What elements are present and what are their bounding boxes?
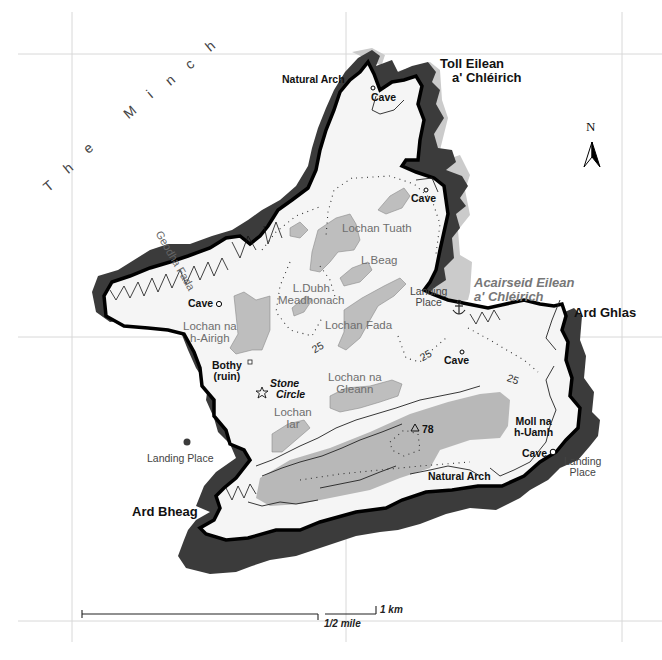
loch-dubh-line1: L.Dubh <box>278 282 345 294</box>
landing-place-east-bay: Landing Place <box>410 286 447 308</box>
loch-iar-line1: Lochan <box>274 406 312 418</box>
islet <box>184 439 191 446</box>
cave-icon <box>371 86 375 90</box>
landing-line2: Place <box>410 297 447 308</box>
loch-gleann-line1: Lochan na <box>328 371 382 383</box>
loch-airigh-label: Lochan na h-Airigh <box>183 320 237 344</box>
cave-northeast-label: Cave <box>411 193 436 204</box>
headland-line1: Toll Eilean <box>440 57 522 71</box>
loch-tuath-label: Lochan Tuath <box>342 222 412 234</box>
cave-icon <box>550 449 556 455</box>
bothy-icon <box>248 360 252 364</box>
natural-arch-south: Natural Arch <box>428 471 491 482</box>
natural-arch-north: Natural Arch <box>282 74 345 85</box>
landing-place-southwest: Landing Place <box>147 453 214 464</box>
loch-fada-label: Lochan Fada <box>325 319 392 331</box>
loch-gleann-line2: Gleann <box>328 383 382 395</box>
cave-west-label: Cave <box>188 298 213 309</box>
bay-label: Acairseid Eilean a' Chléirich <box>474 276 574 303</box>
moll-na-h-uamh-label: Moll na h-Uamh <box>514 416 553 438</box>
loch-gleann-label: Lochan na Gleann <box>328 371 382 395</box>
headland-ard-ghlas: Ard Ghlas <box>574 306 636 320</box>
loch-dubh-line2: Meadhonach <box>278 294 345 306</box>
headland-toll-eilean: Toll Eilean a' Chléirich <box>440 57 522 84</box>
loch-iar-label: Lochan Iar <box>274 406 312 430</box>
loch-dubh-label: L.Dubh Meadhonach <box>278 282 345 306</box>
bay-line1: Acairseid Eilean <box>474 276 574 290</box>
north-arrow-icon <box>584 142 600 167</box>
loch-iar-line2: Iar <box>274 418 312 430</box>
summit-height-label: 78 <box>422 424 434 435</box>
bay-line2: a' Chléirich <box>474 290 574 304</box>
bothy-line2: (ruin) <box>212 371 242 382</box>
landing-place-southeast: Landing Place <box>564 456 601 478</box>
stone-circle-line2: Circle <box>270 389 305 400</box>
cave-north-label: Cave <box>371 92 396 103</box>
loch-airigh-line1: Lochan na <box>183 320 237 332</box>
bothy-label: Bothy (ruin) <box>212 360 242 382</box>
landing-line2: Place <box>564 467 601 478</box>
stone-circle-label: Stone Circle <box>270 378 305 400</box>
scale-mile-label: 1/2 mile <box>324 619 361 630</box>
loch-airigh-line2: h-Airigh <box>183 332 237 344</box>
loch-beag-label: L.Beag <box>361 254 397 266</box>
cave-east-label: Cave <box>444 355 469 366</box>
north-arrow-label: N <box>586 120 595 134</box>
headland-ard-bheag: Ard Bheag <box>132 505 198 519</box>
cave-southeast-label: Cave <box>522 448 547 459</box>
scale-km-label: 1 km <box>380 605 403 616</box>
cave-icon <box>216 301 221 306</box>
moll-line2: h-Uamh <box>514 427 553 438</box>
headland-line2: a' Chléirich <box>440 71 522 85</box>
